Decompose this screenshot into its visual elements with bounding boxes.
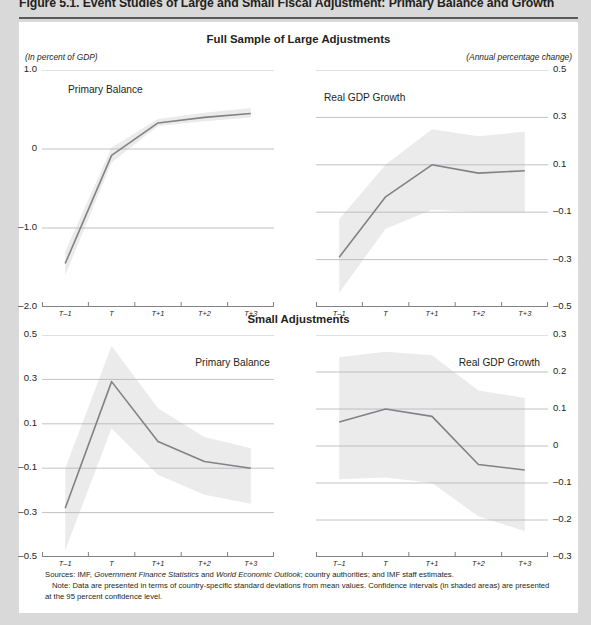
- unit-note-right-top: (Annual percentage change): [466, 52, 572, 62]
- y-axis-tick-label: 1.0: [7, 63, 37, 74]
- figure-page: { "figure": { "title": "Figure 5.1. Even…: [0, 0, 591, 625]
- chart-large-primary-balance: 1.00–1.0–2.0T–1TT+1T+2T+3Primary Balance: [42, 70, 274, 307]
- y-axis-tick-label: –0.5: [553, 300, 583, 311]
- y-axis-tick-label: 0.1: [553, 402, 583, 413]
- y-axis-tick-label: 0.3: [553, 328, 583, 339]
- section-heading-small: Small Adjustments: [19, 313, 578, 325]
- x-axis-tick-label: T+2: [184, 559, 224, 568]
- confidence-band: [65, 108, 251, 275]
- series-label: Real GDP Growth: [324, 92, 405, 103]
- footnote-sources: Sources: IMF, Government Finance Statist…: [45, 570, 557, 581]
- unit-note-left-top: (In percent of GDP): [25, 52, 98, 62]
- y-axis-tick-label: –0.5: [7, 550, 37, 561]
- footnote-note-text: Data are presented in terms of country-s…: [45, 581, 549, 601]
- y-axis-tick-label: 0.3: [553, 110, 583, 121]
- footnote-sources-text-2: and: [201, 570, 214, 579]
- y-axis-tick-label: 0.1: [7, 417, 37, 428]
- y-axis-tick-label: –0.3: [553, 550, 583, 561]
- data-line: [65, 113, 251, 263]
- title-divider: [19, 17, 578, 19]
- footnote-sources-italic-2: World Economic Outlook: [216, 570, 301, 579]
- footnote-sources-italic-1: Government Finance Statistics: [94, 570, 199, 579]
- y-axis-tick-label: –2.0: [7, 300, 37, 311]
- x-axis-tick-label: T+1: [138, 559, 178, 568]
- x-axis-tick-label: T–1: [319, 559, 359, 568]
- footnote-note-label: Note:: [52, 581, 70, 590]
- y-axis-tick-label: –0.3: [7, 506, 37, 517]
- footnote-sources-text-3: ; country authorities; and IMF staff est…: [301, 570, 454, 579]
- section-heading-large: Full Sample of Large Adjustments: [19, 33, 578, 45]
- x-axis-tick-label: T+3: [231, 559, 271, 568]
- confidence-band: [339, 129, 525, 293]
- footnote-sources-label: Sources:: [45, 570, 75, 579]
- confidence-band: [65, 346, 251, 550]
- x-axis-tick-label: T–1: [45, 559, 85, 568]
- chart-small-primary-balance: 0.50.30.1–0.1–0.3–0.5T–1TT+1T+2T+3Primar…: [42, 335, 274, 557]
- y-axis-tick-label: 0: [553, 439, 583, 450]
- y-axis-tick-label: 0.5: [7, 328, 37, 339]
- footnotes: Sources: IMF, Government Finance Statist…: [45, 570, 557, 603]
- footnote-note: Note: Data are presented in terms of cou…: [45, 581, 557, 603]
- y-axis-tick-label: 0.5: [553, 63, 583, 74]
- chart-small-real-gdp-growth: 0.30.20.10–0.1–0.2–0.3T–1TT+1T+2T+3Real …: [316, 335, 548, 557]
- y-axis-tick-label: –0.2: [553, 513, 583, 524]
- figure-title: Figure 5.1. Event Studies of Large and S…: [19, 0, 579, 18]
- figure-panel: Full Sample of Large Adjustments (In per…: [19, 22, 578, 613]
- y-axis-tick-label: –0.1: [553, 205, 583, 216]
- y-axis-tick-label: –1.0: [7, 221, 37, 232]
- y-axis-tick-label: –0.1: [7, 461, 37, 472]
- chart-large-real-gdp-growth: 0.50.30.1–0.1–0.3–0.5T–1TT+1T+2T+3Real G…: [316, 70, 548, 307]
- y-axis-tick-label: 0.1: [553, 158, 583, 169]
- chart-plot-area: [42, 70, 274, 307]
- x-axis-tick-label: T: [92, 559, 132, 568]
- y-axis-tick-label: –0.3: [553, 253, 583, 264]
- x-axis-tick-label: T+2: [458, 559, 498, 568]
- series-label: Primary Balance: [195, 357, 270, 368]
- page-bottom-margin: [0, 613, 591, 625]
- chart-plot-area: [316, 70, 548, 307]
- y-axis-tick-label: 0.3: [7, 372, 37, 383]
- y-axis-tick-label: –0.1: [553, 476, 583, 487]
- chart-plot-area: [42, 335, 274, 557]
- series-label: Real GDP Growth: [459, 357, 540, 368]
- series-label: Primary Balance: [68, 84, 143, 95]
- chart-plot-area: [316, 335, 548, 557]
- x-axis-tick-label: T+3: [505, 559, 545, 568]
- x-axis-tick-label: T+1: [412, 559, 452, 568]
- y-axis-tick-label: 0.2: [553, 365, 583, 376]
- y-axis-tick-label: 0: [7, 142, 37, 153]
- confidence-band: [339, 352, 525, 531]
- x-axis-tick-label: T: [366, 559, 406, 568]
- footnote-sources-text-1: IMF,: [77, 570, 92, 579]
